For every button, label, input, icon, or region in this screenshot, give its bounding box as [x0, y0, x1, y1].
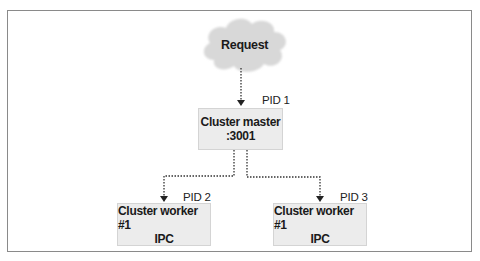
worker-1-pid-label: PID 2: [183, 191, 211, 203]
worker-1-ipc: IPC: [154, 232, 173, 246]
master-port: :3001: [226, 129, 255, 143]
cluster-worker-node-2: Cluster worker #1 IPC: [273, 203, 367, 246]
master-pid-label: PID 1: [262, 94, 290, 106]
arrow-master-to-worker-2: [247, 150, 324, 202]
worker-1-title: Cluster worker #1: [118, 204, 210, 232]
cluster-master-node: Cluster master :3001: [198, 108, 283, 150]
request-label: Request: [221, 38, 268, 52]
arrow-request-to-master: [237, 68, 245, 106]
master-title: Cluster master: [201, 115, 281, 129]
worker-2-title: Cluster worker #1: [274, 204, 366, 232]
cluster-worker-node-1: Cluster worker #1 IPC: [117, 203, 211, 246]
worker-2-pid-label: PID 3: [340, 191, 368, 203]
worker-2-ipc: IPC: [310, 232, 329, 246]
